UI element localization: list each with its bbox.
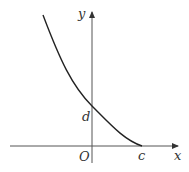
y-intercept-label: d [82, 109, 90, 124]
x-axis-label: x [174, 148, 182, 163]
x-intercept-label: c [138, 148, 146, 163]
graph-diagram: y x O d c [0, 0, 189, 172]
origin-label: O [79, 149, 90, 164]
y-axis-label: y [77, 6, 86, 21]
